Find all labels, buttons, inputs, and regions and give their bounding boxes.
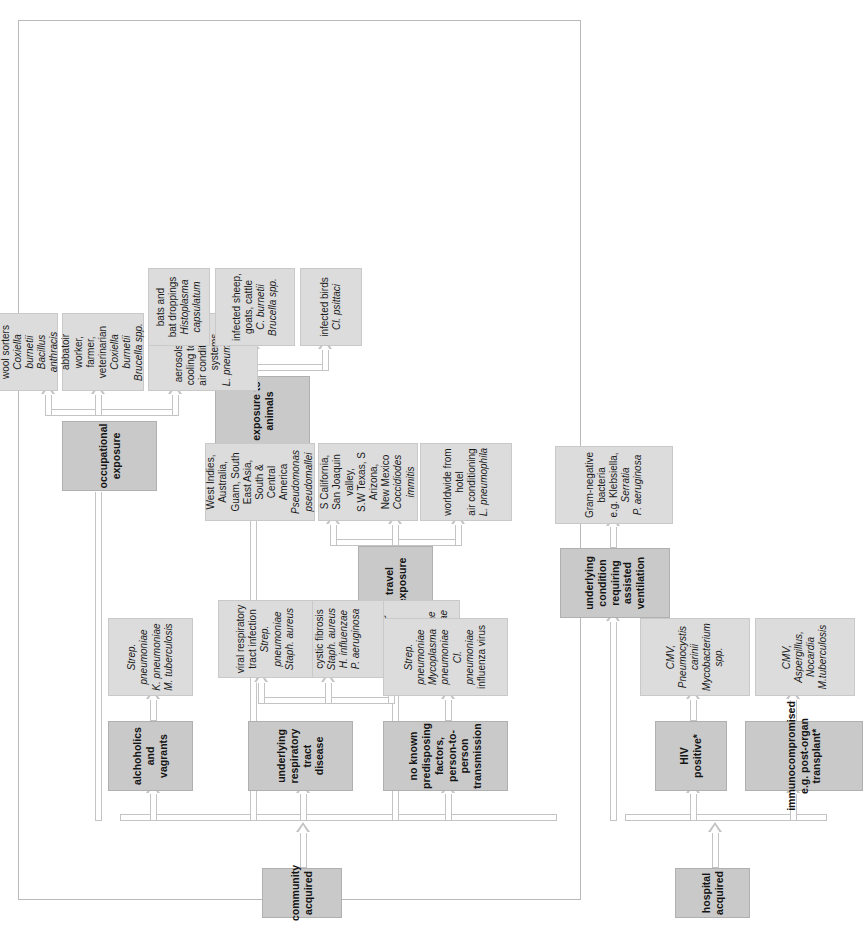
organism-list: West Indies, Australia,Guam, South East … — [205, 447, 315, 517]
organism-line: Cl. pneumoniae — [452, 622, 476, 692]
organisms-ventilation: Gram-negative bacteriae.g. Klebsiella,Se… — [555, 446, 673, 524]
organism-list: animal hideimporters,wool sortersCoxiell… — [0, 317, 61, 387]
organism-line: farmer, veterinarian — [85, 317, 109, 387]
organism-line: viral respiratory — [235, 604, 247, 674]
organism-line: Coxiella burnetii — [12, 317, 36, 387]
text-line: e.g. post-organ transplant* — [798, 701, 824, 811]
organism-list: infected sheep,goats, cattleC. burnetiiB… — [231, 273, 280, 341]
organism-line: Mycoplasma pneumoniae — [427, 622, 451, 692]
organism-line: CMV, Pneumocystis carinii — [665, 622, 702, 692]
category-immunocompromised[interactable]: immunocompromisede.g. post-organ transpl… — [745, 721, 863, 791]
organism-list: Strep. pneumoniaeMycoplasma pneumoniaeCl… — [403, 622, 488, 692]
category-underlying-respiratory[interactable]: underlying respiratorytract disease — [248, 721, 353, 791]
category-no-known-factors-label: no known predisposingfactors, person-to-… — [407, 723, 484, 789]
organism-list: viral respiratorytract infectionStrep. p… — [235, 604, 296, 674]
organisms-hotel-air-conditioning: worldwide from hotelair conditioningL. p… — [420, 443, 512, 521]
root-community-acquired-label: community acquired — [289, 865, 315, 921]
text-line: underlying respiratory — [275, 725, 301, 787]
organism-list: Strep. pneumoniaeK. pneumoniaeM. tubercu… — [126, 622, 175, 692]
text-line: transmission — [471, 723, 484, 789]
organism-list: abbatoir worker,farmer, veterinarianCoxi… — [60, 317, 145, 387]
organism-line: S.W Texas, S Arizona, — [356, 447, 380, 517]
category-hiv-positive[interactable]: HIV positive* — [655, 721, 727, 791]
organism-line: Brucella spp. — [267, 273, 279, 341]
organism-list: worldwide from hotelair conditioningL. p… — [442, 447, 491, 517]
category-alcoholics-label: alchoholics and vagrants — [131, 725, 169, 787]
organism-line: capsulatum — [191, 277, 203, 338]
organism-line: L. pneumophila — [478, 447, 490, 517]
organisms-bats: bats andbat droppingsHistoplasmacapsulat… — [148, 268, 210, 346]
text-line: factors, person-to-person — [433, 723, 471, 789]
organisms-hiv: CMV, Pneumocystis cariniiMycobacterium s… — [640, 618, 750, 696]
text-line: no known predisposing — [407, 723, 433, 789]
organisms-immunocompromised: CMV, Aspergillus,NocardiaM.tuberculosis — [755, 618, 855, 696]
organism-line: cystic fibrosis — [314, 608, 326, 670]
organisms-abbatoir: abbatoir worker,farmer, veterinarianCoxi… — [62, 313, 144, 391]
organism-line: K. pneumoniae — [151, 622, 163, 692]
organism-line: abbatoir worker, — [60, 317, 84, 387]
organism-line: Staph. aureus — [326, 608, 338, 670]
organism-line: Staph. aureus — [284, 604, 296, 674]
category-occupational-exposure[interactable]: occupational exposure — [62, 421, 157, 491]
category-occupational-exposure-label: occupational exposure — [97, 424, 123, 489]
text-line: immunocompromised — [785, 701, 798, 811]
organism-line: C. burnetii — [255, 273, 267, 341]
root-community-acquired[interactable]: community acquired — [262, 868, 342, 918]
category-immunocompromised-label: immunocompromisede.g. post-organ transpl… — [785, 701, 823, 811]
organism-line: CMV, Aspergillus, — [781, 622, 805, 692]
organism-list: CMV, Pneumocystis cariniiMycobacterium s… — [665, 622, 726, 692]
organism-line: goats, cattle — [243, 273, 255, 341]
organisms-coccidiodes: S California,San Joaquin valley,S.W Texa… — [318, 443, 418, 521]
organism-line: Pseudomonas — [290, 447, 302, 517]
organism-line: bats and — [155, 277, 167, 338]
organism-line: Coccidiodes immitis — [392, 447, 416, 517]
organism-line: San Joaquin valley, — [331, 447, 355, 517]
category-no-known-factors[interactable]: no known predisposingfactors, person-to-… — [383, 721, 508, 791]
organism-line: Serratia — [620, 450, 632, 520]
organism-line: P. aeruginosa — [350, 608, 362, 670]
organism-line: Strep. pneumoniae — [403, 622, 427, 692]
organism-line: Strep. pneumoniae — [259, 604, 283, 674]
category-alcoholics[interactable]: alchoholics and vagrants — [108, 721, 193, 791]
organisms-viral-resp: viral respiratorytract infectionStrep. p… — [218, 600, 313, 678]
organism-line: H. influenzae — [338, 608, 350, 670]
organisms-no-known-factors: Strep. pneumoniaeMycoplasma pneumoniaeCl… — [383, 618, 508, 696]
organisms-pseudomallei: West Indies, Australia,Guam, South East … — [205, 443, 315, 521]
connector-occupational-fan — [45, 409, 177, 416]
organism-line: New Mexico — [380, 447, 392, 517]
organism-line: Coxiella burnetii — [109, 317, 133, 387]
organism-line: air conditioning — [466, 447, 478, 517]
organisms-alcoholics: Strep. pneumoniaeK. pneumoniaeM. tubercu… — [108, 618, 193, 696]
connector-community-trunk — [120, 814, 557, 821]
organism-list: Gram-negative bacteriae.g. Klebsiella,Se… — [584, 450, 645, 520]
organism-line: Histoplasma — [179, 277, 191, 338]
text-line: tract disease — [301, 725, 327, 787]
text-line: requiring assisted — [609, 552, 635, 614]
organisms-infected-birds: infected birdsCl. psittaci — [300, 268, 362, 346]
organism-line: bat droppings — [167, 277, 179, 338]
organism-line: Cl. psittaci — [331, 277, 343, 336]
category-assisted-ventilation[interactable]: underlying conditionrequiring assistedve… — [560, 548, 670, 618]
text-line: ventilation — [634, 552, 647, 614]
category-assisted-ventilation-label: underlying conditionrequiring assistedve… — [583, 552, 647, 614]
organism-list: cystic fibrosisStaph. aureusH. influenza… — [314, 608, 363, 670]
organism-list: CMV, Aspergillus,NocardiaM.tuberculosis — [781, 622, 830, 692]
organism-line: P. aeruginosa — [632, 450, 644, 520]
root-hospital-acquired[interactable]: hospital acquired — [675, 868, 750, 918]
organisms-infected-sheep: infected sheep,goats, cattleC. burnetiiB… — [215, 268, 295, 346]
organism-line: M.tuberculosis — [817, 622, 829, 692]
organism-line: South & Central America — [254, 447, 291, 517]
organism-line: Brucella spp. — [133, 317, 145, 387]
organism-line: wool sorters — [0, 317, 12, 387]
organism-line: Mycobacterium spp. — [701, 622, 725, 692]
category-hiv-positive-label: HIV positive* — [678, 725, 704, 787]
organism-line: S California, — [319, 447, 331, 517]
organism-line: e.g. Klebsiella, — [608, 450, 620, 520]
organism-line: pseudomallei — [303, 447, 315, 517]
organism-line: Nocardia — [805, 622, 817, 692]
organism-line: infected birds — [319, 277, 331, 336]
organism-list: bats andbat droppingsHistoplasmacapsulat… — [155, 277, 204, 338]
organism-line: Bacillus anthracis — [36, 317, 60, 387]
organism-line: West Indies, Australia, — [205, 447, 229, 517]
